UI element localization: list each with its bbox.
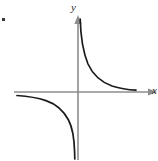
y-axis-label: y xyxy=(71,2,76,13)
stray-mark xyxy=(2,18,5,21)
hyperbola-figure: y x xyxy=(0,0,158,161)
graph-canvas xyxy=(0,0,158,161)
hyperbola-branch-lower-left xyxy=(17,96,75,160)
x-axis-label: x xyxy=(152,85,157,96)
hyperbola-branch-upper-right xyxy=(80,19,136,90)
